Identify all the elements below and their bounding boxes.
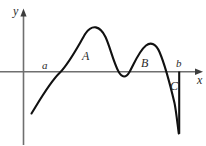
- point-label-b: b: [176, 58, 182, 69]
- figure-container: y x a b A B C: [0, 0, 206, 145]
- region-label-a: A: [82, 50, 89, 62]
- x-axis-label: x: [197, 74, 202, 86]
- region-label-b: B: [141, 57, 148, 69]
- horizontal-axis: [0, 69, 203, 75]
- point-label-a: a: [42, 60, 48, 71]
- vertical-axis: [20, 9, 26, 146]
- y-axis-arrowhead: [20, 9, 26, 17]
- region-label-c: C: [170, 80, 178, 92]
- figure-canvas: [0, 0, 206, 145]
- y-axis-label: y: [13, 5, 18, 17]
- function-curve: [32, 27, 179, 133]
